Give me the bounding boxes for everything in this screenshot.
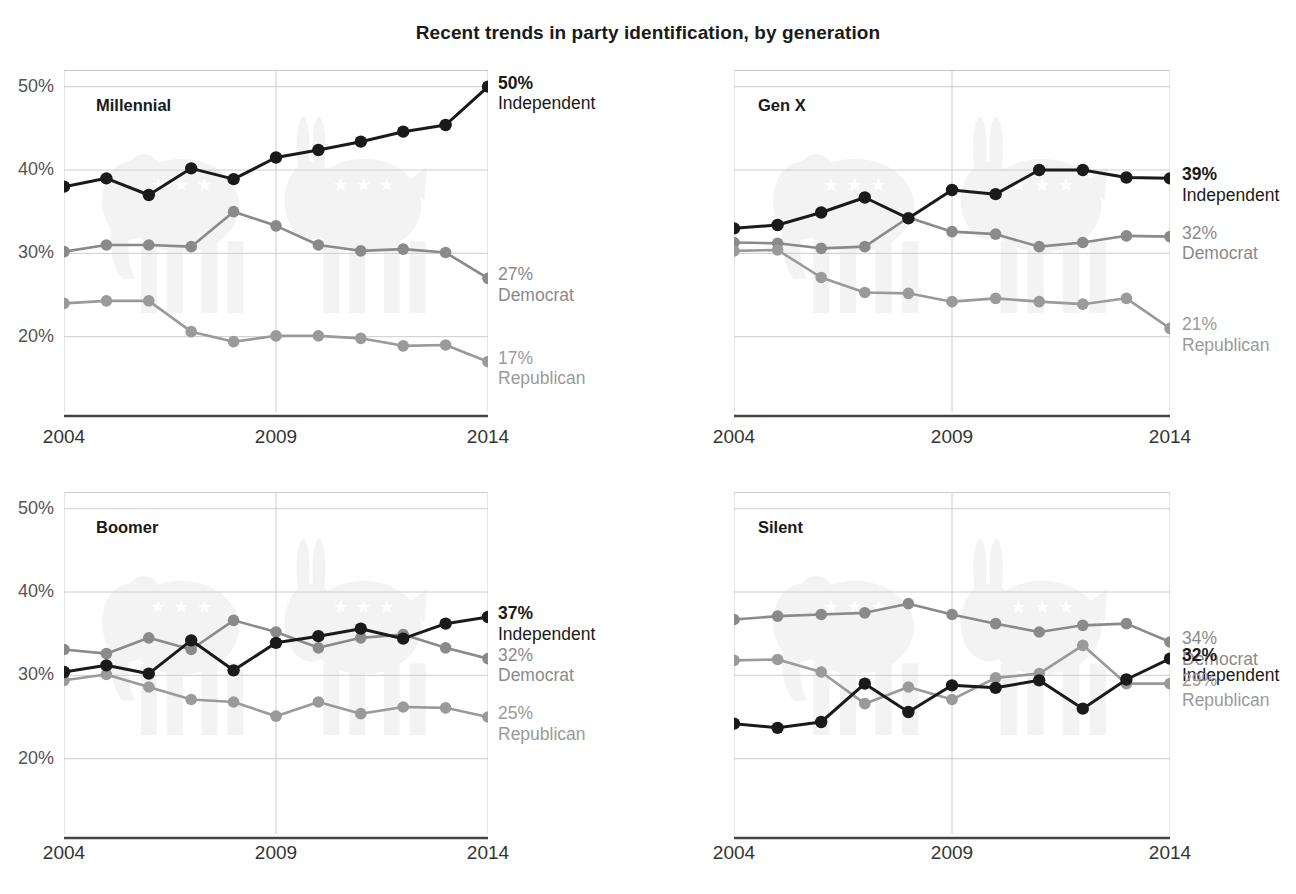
data-point <box>1077 237 1089 249</box>
y-tick-label-40: 40% <box>0 159 54 180</box>
data-point <box>1164 172 1170 184</box>
x-tick-label-2014: 2014 <box>1138 426 1202 448</box>
data-point <box>1077 702 1089 714</box>
legend-value: 32% <box>1182 223 1258 244</box>
data-point <box>228 696 240 708</box>
data-point <box>397 243 409 255</box>
x-tick-label-2014: 2014 <box>456 426 520 448</box>
x-tick-label-2004: 2004 <box>702 842 766 864</box>
donkey-watermark-icon <box>284 117 427 314</box>
legend-value: 27% <box>498 264 574 285</box>
data-point <box>1033 296 1045 308</box>
data-point <box>1033 164 1045 176</box>
data-point <box>355 333 367 345</box>
data-point <box>64 246 70 258</box>
data-point <box>1164 678 1170 690</box>
data-point <box>903 288 915 300</box>
data-point <box>989 682 1001 694</box>
legend-value: 29% <box>1182 670 1270 691</box>
y-tick-label-50: 50% <box>0 498 54 519</box>
panel-silent <box>734 492 1170 852</box>
elephant-watermark-icon <box>773 576 918 735</box>
legend-independent-boomer: 37%Independent <box>498 603 595 644</box>
legend-democrat-millennial: 27%Democrat <box>498 264 574 305</box>
data-point <box>1121 293 1133 305</box>
data-point <box>815 243 827 255</box>
data-point <box>859 241 871 253</box>
x-tick-label-2009: 2009 <box>920 842 984 864</box>
data-point <box>1120 171 1132 183</box>
x-tick-label-2009: 2009 <box>920 426 984 448</box>
legend-value: 50% <box>498 73 595 94</box>
data-point <box>946 226 958 238</box>
data-point <box>227 664 239 676</box>
data-point <box>397 340 409 352</box>
data-point <box>989 188 1001 200</box>
data-point <box>185 241 197 253</box>
data-point <box>143 632 155 644</box>
data-point <box>270 637 282 649</box>
legend-value: 21% <box>1182 314 1270 335</box>
elephant-watermark-icon <box>773 154 918 313</box>
data-point <box>990 293 1002 305</box>
data-point <box>143 189 155 201</box>
legend-value: 17% <box>498 348 586 369</box>
panel-title-gen-x: Gen X <box>758 96 806 115</box>
x-tick-label-2009: 2009 <box>244 842 308 864</box>
data-point <box>1077 164 1089 176</box>
data-point <box>772 654 784 666</box>
data-point <box>270 330 282 342</box>
data-point <box>990 228 1002 240</box>
panel-title-millennial: Millennial <box>96 96 171 115</box>
x-tick-label-2004: 2004 <box>32 842 96 864</box>
data-point <box>902 706 914 718</box>
data-point <box>946 296 958 308</box>
y-tick-label-20: 20% <box>0 748 54 769</box>
data-point <box>734 655 740 667</box>
data-point <box>1033 674 1045 686</box>
panel-gen-x <box>734 70 1170 430</box>
data-point <box>270 220 282 232</box>
data-point <box>946 694 958 706</box>
x-tick-label-2014: 2014 <box>1138 842 1202 864</box>
legend-democrat-gen-x: 32%Democrat <box>1182 223 1258 264</box>
data-point <box>64 666 70 678</box>
data-point <box>734 717 740 729</box>
data-point <box>990 618 1002 630</box>
data-point <box>815 666 827 678</box>
legend-democrat-boomer: 32%Democrat <box>498 645 574 686</box>
legend-value: 37% <box>498 603 595 624</box>
plot-area-millennial <box>64 70 488 430</box>
data-point <box>859 677 871 689</box>
data-point <box>734 614 740 626</box>
legend-label: Republican <box>498 724 586 745</box>
donkey-watermark-icon <box>961 117 1108 314</box>
panel-boomer <box>64 492 488 852</box>
data-point <box>946 679 958 691</box>
legend-republican-millennial: 17%Republican <box>498 348 586 389</box>
data-point <box>815 609 827 621</box>
y-tick-label-30: 30% <box>0 242 54 263</box>
data-point <box>1164 636 1170 648</box>
data-point <box>100 659 112 671</box>
data-point <box>859 287 871 299</box>
data-point <box>946 609 958 621</box>
data-point <box>859 698 871 710</box>
legend-value: 32% <box>498 645 574 666</box>
data-point <box>1121 230 1133 242</box>
plot-area-silent <box>734 492 1170 852</box>
data-point <box>440 702 452 714</box>
data-point <box>771 722 783 734</box>
data-point <box>143 295 155 307</box>
data-point <box>185 694 197 706</box>
data-point <box>734 245 740 257</box>
data-point <box>355 135 367 147</box>
legend-label: Independent <box>498 624 595 645</box>
data-point <box>1033 241 1045 253</box>
data-point <box>1120 673 1132 685</box>
data-point <box>143 239 155 251</box>
data-point <box>270 151 282 163</box>
plot-area-boomer <box>64 492 488 852</box>
data-point <box>185 326 197 338</box>
data-point <box>482 611 488 623</box>
